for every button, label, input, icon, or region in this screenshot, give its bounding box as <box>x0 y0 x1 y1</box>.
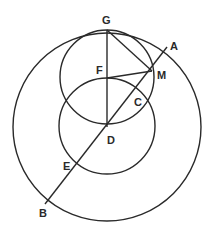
label-m: M <box>157 69 166 81</box>
label-b: B <box>39 207 47 219</box>
segment-ab <box>45 47 167 204</box>
label-f: F <box>96 64 103 76</box>
label-d: D <box>107 134 115 146</box>
label-e: E <box>63 160 70 172</box>
label-a: A <box>170 40 178 52</box>
geometry-diagram: G A M F C D E B <box>0 0 209 236</box>
label-g: G <box>102 14 111 26</box>
label-c: C <box>134 96 142 108</box>
